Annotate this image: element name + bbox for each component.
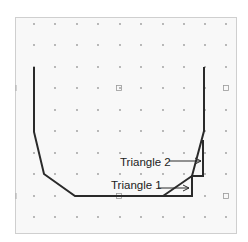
grid-dot xyxy=(183,216,185,218)
grid-dot xyxy=(76,152,78,154)
grid-dot xyxy=(162,44,164,46)
grid-dot xyxy=(162,216,164,218)
grid-dot xyxy=(204,216,206,218)
grid-dot xyxy=(162,23,164,25)
grid-dot xyxy=(119,130,121,132)
grid-dot xyxy=(162,87,164,89)
grid-dot xyxy=(204,44,206,46)
grid-dot xyxy=(76,87,78,89)
grid-dot xyxy=(76,173,78,175)
grid-dot xyxy=(183,87,185,89)
grid-dot xyxy=(162,130,164,132)
grid-dot xyxy=(54,23,56,25)
grid-dot xyxy=(54,216,56,218)
grid-dot xyxy=(76,109,78,111)
grid-dot xyxy=(119,109,121,111)
grid-dot xyxy=(162,66,164,68)
grid-dot xyxy=(33,173,35,175)
grid-dot xyxy=(54,173,56,175)
grid-dot xyxy=(54,109,56,111)
grid-dot xyxy=(54,44,56,46)
grid-dot xyxy=(33,152,35,154)
grid-dot xyxy=(76,66,78,68)
grid-dot xyxy=(97,44,99,46)
grid-dot xyxy=(119,23,121,25)
grid-dot xyxy=(140,66,142,68)
grid-dot xyxy=(183,66,185,68)
grid-dot xyxy=(204,152,206,154)
grid-dot xyxy=(119,216,121,218)
grid-dot xyxy=(140,173,142,175)
grid-dot xyxy=(140,130,142,132)
grid-dot xyxy=(225,44,227,46)
grid-dot xyxy=(119,173,121,175)
grid-dot xyxy=(54,87,56,89)
grid-dot xyxy=(225,23,227,25)
grid-dot xyxy=(204,173,206,175)
grid-dot xyxy=(97,216,99,218)
grid-dot xyxy=(97,87,99,89)
grid-dot xyxy=(119,87,121,89)
grid-dot xyxy=(140,44,142,46)
grid-dot xyxy=(225,216,227,218)
grid-dot xyxy=(54,195,56,197)
triangle-2-label: Triangle 2 xyxy=(120,156,171,168)
grid-dot xyxy=(119,44,121,46)
grid-dot xyxy=(97,130,99,132)
grid-dot xyxy=(97,66,99,68)
grid-dot xyxy=(97,23,99,25)
grid-dot xyxy=(119,66,121,68)
grid-dot xyxy=(76,44,78,46)
grid-dot xyxy=(54,66,56,68)
grid-dot xyxy=(183,23,185,25)
grid-dot xyxy=(140,87,142,89)
grid-dot xyxy=(162,152,164,154)
grid-dot xyxy=(225,66,227,68)
grid-dot xyxy=(76,216,78,218)
grid-dot xyxy=(225,173,227,175)
grid-dot xyxy=(33,44,35,46)
cross-section-diagram: Triangle 2 Triangle 1 xyxy=(0,0,248,242)
grid-dot xyxy=(162,109,164,111)
grid-dot xyxy=(225,130,227,132)
triangle-1-label: Triangle 1 xyxy=(111,179,162,191)
grid-dot xyxy=(54,130,56,132)
grid-dot xyxy=(33,216,35,218)
grid-dot xyxy=(140,216,142,218)
grid-dot xyxy=(33,23,35,25)
grid-dot xyxy=(119,152,121,154)
grid-dot xyxy=(183,173,185,175)
grid-dot xyxy=(204,23,206,25)
grid-dot xyxy=(183,130,185,132)
grid-dot xyxy=(204,195,206,197)
grid-dot xyxy=(183,109,185,111)
grid-dot xyxy=(54,152,56,154)
grid-dot xyxy=(76,130,78,132)
grid-dot xyxy=(97,109,99,111)
grid-dot xyxy=(162,173,164,175)
grid-dot xyxy=(33,195,35,197)
grid-dot xyxy=(225,152,227,154)
grid-dot xyxy=(140,152,142,154)
grid-dot xyxy=(140,23,142,25)
grid-dot xyxy=(76,23,78,25)
grid-dot xyxy=(183,44,185,46)
grid-dot xyxy=(183,152,185,154)
grid-dot xyxy=(97,173,99,175)
grid-dot xyxy=(140,109,142,111)
grid-dot xyxy=(225,109,227,111)
grid-dot xyxy=(97,152,99,154)
